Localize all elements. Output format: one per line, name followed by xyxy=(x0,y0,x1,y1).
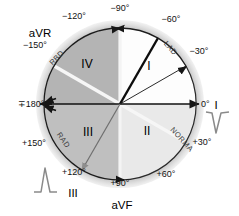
degree-label-plus-120: +120° xyxy=(62,167,86,177)
axis-wheel-svg: LAD NORMAL RAD RBD I II III IV −90° −120… xyxy=(0,0,239,216)
degree-label-plus-30: +30° xyxy=(193,137,212,147)
lead-label-I: I xyxy=(214,99,217,111)
lead-III-qrs-waveform xyxy=(34,168,57,192)
quadrant-II-numeral: II xyxy=(144,124,151,138)
quadrant-I-numeral: I xyxy=(147,59,150,73)
cardiac-axis-figure: LAD NORMAL RAD RBD I II III IV −90° −120… xyxy=(0,0,239,216)
lead-label-III: III xyxy=(68,187,78,199)
degree-label-plus-minus-180: ∓180° xyxy=(18,99,45,109)
degree-label-plus-150: +150° xyxy=(22,138,46,148)
degree-label-minus-90: −90° xyxy=(111,3,130,13)
degree-label-plus-60: +60° xyxy=(157,169,176,179)
lead-I-qrs-waveform xyxy=(206,112,229,133)
lead-label-aVF: aVF xyxy=(111,199,132,211)
degree-label-minus-120: −120° xyxy=(62,11,86,21)
lead-label-aVR: aVR xyxy=(29,27,51,39)
degree-label-zero: 0° xyxy=(201,99,210,109)
degree-label-minus-30: −30° xyxy=(190,46,209,56)
degree-label-minus-150: −150° xyxy=(23,40,47,50)
degree-label-minus-60: −60° xyxy=(162,14,181,24)
quadrant-IV-numeral: IV xyxy=(81,57,92,71)
degree-label-plus-90: +90° xyxy=(111,178,130,188)
quadrant-III-numeral: III xyxy=(83,125,93,139)
